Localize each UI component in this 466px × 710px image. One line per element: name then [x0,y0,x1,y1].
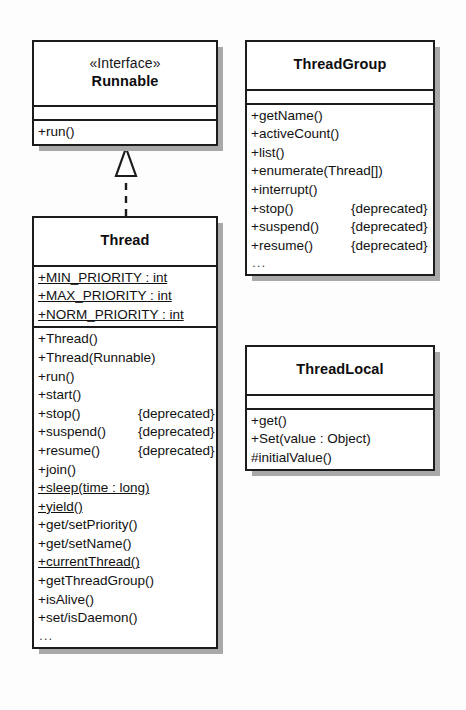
operation-row[interactable]: +getName() [247,107,433,126]
attribute-signature: +NORM_PRIORITY : int [38,306,184,325]
operation-row[interactable]: +suspend() {deprecated} [34,423,216,442]
operation-row[interactable]: +list() [247,144,433,163]
operation-signature: +currentThread() [38,553,140,572]
operation-signature: +activeCount() [251,125,343,144]
attribute-signature: +MIN_PRIORITY : int [38,269,167,288]
operation-signature: +enumerate(Thread[]) [251,162,383,181]
class-title: Thread [38,231,212,251]
operation-row[interactable]: +interrupt() [247,181,433,200]
operation-row[interactable]: +activeCount() [247,125,433,144]
operation-signature: +suspend() [38,423,130,442]
operation-signature: +Thread(Runnable) [38,349,155,368]
truncation-ellipsis: ... [34,628,216,645]
operation-note: {deprecated} [343,218,428,237]
operation-signature: +interrupt() [251,181,343,200]
operation-signature: +isAlive() [38,591,130,610]
operation-signature: +Thread() [38,330,130,349]
operation-row[interactable]: +get() [247,412,433,431]
class-name-compartment: ThreadLocal [247,347,433,394]
operation-row[interactable]: +get/setPriority() [34,516,216,535]
attributes-compartment [247,89,433,103]
attribute-row[interactable]: +NORM_PRIORITY : int [34,306,216,325]
operation-signature: #initialValue() [251,449,332,468]
operation-row[interactable]: +currentThread() [34,553,216,572]
operation-row[interactable]: +start() [34,386,216,405]
class-box-threadlocal[interactable]: ThreadLocal +get() +Set(value : Object) … [245,345,435,471]
diagram-canvas: «Interface» Runnable +run() Thread +MIN_… [0,0,466,710]
operation-note: {deprecated} [130,405,215,424]
class-title: Runnable [38,72,212,92]
operation-row[interactable]: +set/isDaemon() [34,609,216,628]
operation-note: {deprecated} [130,442,215,461]
class-name-compartment: «Interface» Runnable [34,42,216,105]
operation-signature: +sleep(time : long) [38,479,149,498]
operation-row[interactable]: +resume() {deprecated} [34,442,216,461]
operation-signature: +list() [251,144,343,163]
attribute-signature: +MAX_PRIORITY : int [38,287,172,306]
operation-signature: +resume() [251,237,343,256]
operation-signature: +join() [38,461,130,480]
operation-note: {deprecated} [343,200,428,219]
operations-compartment: +run() [34,119,216,144]
class-name-compartment: Thread [34,218,216,265]
operation-row[interactable]: +run() [34,123,216,142]
operation-row[interactable]: +Thread(Runnable) [34,349,216,368]
operation-row[interactable]: +yield() [34,498,216,517]
class-box-runnable[interactable]: «Interface» Runnable +run() [32,40,218,146]
operation-row[interactable]: +stop() {deprecated} [34,405,216,424]
operation-signature: +getThreadGroup() [38,572,154,591]
class-title: ThreadLocal [251,360,429,380]
attribute-row[interactable]: +MAX_PRIORITY : int [34,287,216,306]
truncation-ellipsis: ... [247,255,433,272]
class-box-thread[interactable]: Thread +MIN_PRIORITY : int +MAX_PRIORITY… [32,216,218,649]
class-box-threadgroup[interactable]: ThreadGroup +getName() +activeCount() +l… [245,40,435,276]
operation-note: {deprecated} [343,237,428,256]
operation-row[interactable]: +suspend() {deprecated} [247,218,433,237]
operation-signature: +yield() [38,498,130,517]
operation-signature: +get/setName() [38,535,131,554]
operation-signature: +get/setPriority() [38,516,137,535]
class-title: ThreadGroup [251,55,429,75]
operation-row[interactable]: +sleep(time : long) [34,479,216,498]
class-stereotype: «Interface» [38,55,212,72]
operation-signature: +set/isDaemon() [38,609,137,628]
operation-signature: +run() [38,368,130,387]
operation-signature: +suspend() [251,218,343,237]
operations-compartment: +getName() +activeCount() +list() +enume… [247,103,433,275]
attribute-row[interactable]: +MIN_PRIORITY : int [34,269,216,288]
operation-row[interactable]: +getThreadGroup() [34,572,216,591]
operation-signature: +get() [251,412,287,431]
attributes-compartment [34,105,216,119]
operation-signature: +stop() [38,405,130,424]
operation-row[interactable]: +Thread() [34,330,216,349]
operation-signature: +start() [38,386,130,405]
operation-row[interactable]: +resume() {deprecated} [247,237,433,256]
operation-note: {deprecated} [130,423,215,442]
operation-row[interactable]: +enumerate(Thread[]) [247,162,433,181]
class-name-compartment: ThreadGroup [247,42,433,89]
hollow-triangle-arrowhead [116,148,136,176]
operation-signature: +Set(value : Object) [251,430,371,449]
operation-signature: +resume() [38,442,130,461]
operation-signature: +stop() [251,200,343,219]
operations-compartment: +get() +Set(value : Object) #initialValu… [247,408,433,470]
operation-signature: +getName() [251,107,343,126]
operation-row[interactable]: +run() [34,368,216,387]
operation-row[interactable]: #initialValue() [247,449,433,468]
operation-row[interactable]: +isAlive() [34,591,216,610]
attributes-compartment [247,394,433,408]
operation-signature: +run() [38,123,74,142]
operation-row[interactable]: +get/setName() [34,535,216,554]
operation-row[interactable]: +join() [34,461,216,480]
operation-row[interactable]: +Set(value : Object) [247,430,433,449]
operations-compartment: +Thread() +Thread(Runnable) +run() +star… [34,326,216,647]
attributes-compartment: +MIN_PRIORITY : int +MAX_PRIORITY : int … [34,265,216,327]
operation-row[interactable]: +stop() {deprecated} [247,200,433,219]
